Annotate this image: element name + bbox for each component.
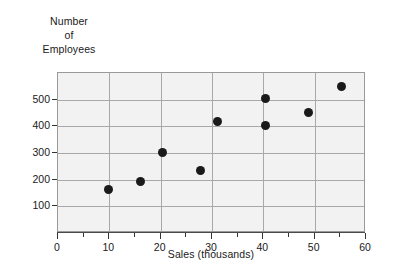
y-axis-tick-label: 200	[6, 174, 50, 184]
gridline-vertical	[315, 73, 316, 231]
gridline-horizontal	[58, 180, 364, 181]
gridline-horizontal	[58, 126, 364, 127]
y-axis-tick-label: 400	[6, 120, 50, 130]
x-axis-minor-tick-mark	[185, 233, 186, 237]
x-axis-tick-mark	[314, 233, 315, 239]
data-point	[213, 117, 222, 126]
y-axis-tick-label: 300	[6, 147, 50, 157]
gridline-vertical	[212, 73, 213, 231]
data-point	[261, 94, 270, 103]
x-axis-tick-mark	[365, 233, 366, 239]
plot-area	[57, 72, 365, 232]
x-axis-tick-mark	[57, 233, 58, 239]
x-axis-minor-tick-mark	[339, 233, 340, 237]
y-axis-tick-label: 100	[6, 200, 50, 210]
gridline-horizontal	[58, 100, 364, 101]
y-axis-tick-mark	[52, 179, 57, 180]
x-axis-tick-mark	[108, 233, 109, 239]
scatter-chart-figure: Number of Employees 10020030040050001020…	[0, 0, 395, 270]
x-axis-title: Sales (thousands)	[57, 248, 365, 260]
y-axis-tick-mark	[52, 99, 57, 100]
y-axis-title-line-2: of	[14, 28, 124, 42]
x-axis-minor-tick-mark	[288, 233, 289, 237]
y-axis-title: Number of Employees	[14, 14, 124, 56]
y-axis-tick-mark	[52, 152, 57, 153]
gridline-horizontal	[58, 206, 364, 207]
y-axis-tick-mark	[52, 125, 57, 126]
y-axis-title-line-1: Number	[14, 14, 124, 28]
data-point	[158, 148, 167, 157]
x-axis-minor-tick-mark	[134, 233, 135, 237]
x-axis-minor-tick-mark	[237, 233, 238, 237]
x-axis-minor-tick-mark	[83, 233, 84, 237]
y-axis-tick-label: 500	[6, 94, 50, 104]
x-axis-tick-mark	[262, 233, 263, 239]
data-point	[136, 177, 145, 186]
y-axis-tick-mark	[52, 205, 57, 206]
y-axis-title-line-3: Employees	[14, 42, 124, 56]
data-point	[104, 185, 113, 194]
data-point	[261, 121, 270, 130]
data-point	[304, 108, 313, 117]
x-axis-tick-mark	[211, 233, 212, 239]
gridline-horizontal	[58, 153, 364, 154]
x-axis-tick-mark	[160, 233, 161, 239]
gridline-vertical	[109, 73, 110, 231]
